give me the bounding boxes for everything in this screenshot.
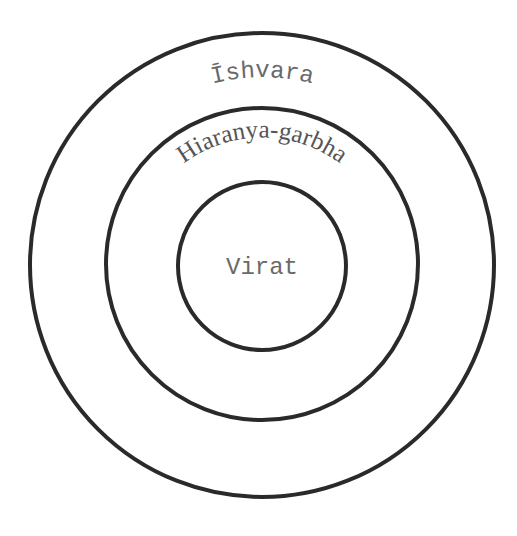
- inner-ring-label: Virat: [226, 254, 298, 281]
- concentric-diagram: Īshvara Hiaranya-garbha Virat: [0, 0, 517, 536]
- outer-ring-label: Īshvara: [208, 57, 316, 90]
